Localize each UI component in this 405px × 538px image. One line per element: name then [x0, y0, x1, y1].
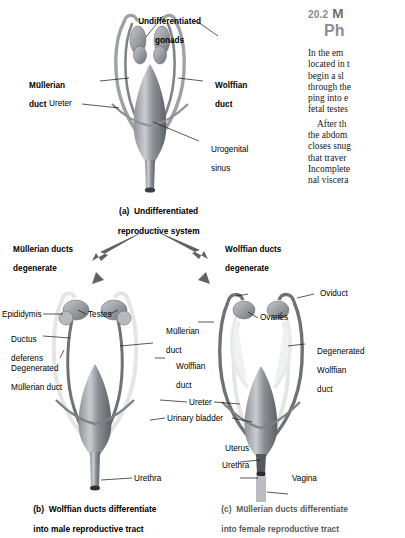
book-text-column: 20.2 M Ph In the em located in t begin a…: [308, 0, 405, 520]
paragraph-1-line-6: fetal testes: [308, 104, 405, 115]
paragraph-2-line-2: the abdom: [308, 130, 405, 141]
paragraph-2-line-1: After th: [308, 119, 405, 130]
paragraph-1-line-5: ping into e: [308, 93, 405, 104]
paragraph-1-line-1: In the em: [308, 48, 405, 59]
figure-reproductive-development: Undifferentiated gonads Müllerian duct W…: [0, 0, 300, 520]
paragraph-2-line-3: closes snug: [308, 141, 405, 152]
paragraph-1-line-3: begin a sl: [308, 71, 405, 82]
shared-leader-lines: [0, 0, 300, 520]
section-heading-line2: Ph: [308, 22, 405, 39]
section-heading-line1: 20.2 M: [308, 6, 405, 22]
paragraph-2-line-6: nal viscera: [308, 175, 405, 186]
paragraph-1-line-2: located in t: [308, 59, 405, 70]
paragraph-2-line-5: Incomplete: [308, 164, 405, 175]
paragraph-2-line-4: that traver: [308, 153, 405, 164]
paragraph-1-line-4: through the: [308, 82, 405, 93]
